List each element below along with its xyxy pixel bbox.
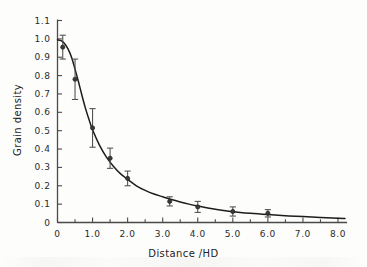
scan-artifact <box>0 257 367 267</box>
data-point <box>230 207 236 216</box>
chart-plot-area <box>0 0 367 267</box>
x-tick-label: 6.0 <box>260 229 276 239</box>
data-point-marker <box>61 45 65 49</box>
y-tick-label: 1.0 <box>12 34 51 44</box>
y-tick-label: 0.9 <box>12 52 51 62</box>
y-tick-label: 0.2 <box>12 181 51 191</box>
x-tick-label: 4.0 <box>190 229 206 239</box>
x-tick-label: 7.0 <box>295 229 311 239</box>
data-point-marker <box>231 209 235 213</box>
y-tick-label: 0.3 <box>12 162 51 172</box>
data-point <box>265 210 271 217</box>
data-points-group <box>60 35 271 217</box>
y-tick-label: 1.1 <box>12 16 51 26</box>
data-point-marker <box>196 205 200 209</box>
data-point <box>125 171 131 186</box>
x-tick-label: 1.0 <box>85 229 101 239</box>
decay-curve-path <box>58 40 346 219</box>
x-tick-label: 2.0 <box>120 229 136 239</box>
data-point <box>72 59 78 99</box>
y-tick-label: 0.1 <box>12 199 51 209</box>
data-point-marker <box>90 126 94 130</box>
data-point-marker <box>266 211 270 215</box>
fitted-curve <box>58 40 346 219</box>
grain-density-figure: 00.10.20.30.40.50.60.70.80.91.01.1 01.02… <box>0 0 367 267</box>
x-tick-label: 3.0 <box>155 229 171 239</box>
x-tick-label: 5.0 <box>225 229 241 239</box>
x-tick-label: 0 <box>54 229 60 239</box>
y-tick-label: 0 <box>12 218 51 228</box>
data-point-marker <box>108 156 112 160</box>
data-point <box>195 201 201 212</box>
data-point-marker <box>168 199 172 203</box>
data-point-marker <box>126 176 130 180</box>
data-point <box>89 109 95 148</box>
axes-group <box>58 20 348 223</box>
y-axis-title: Grain density <box>12 83 23 155</box>
x-tick-label: 8.0 <box>330 229 346 239</box>
y-tick-label: 0.8 <box>12 71 51 81</box>
data-point-marker <box>73 77 77 81</box>
